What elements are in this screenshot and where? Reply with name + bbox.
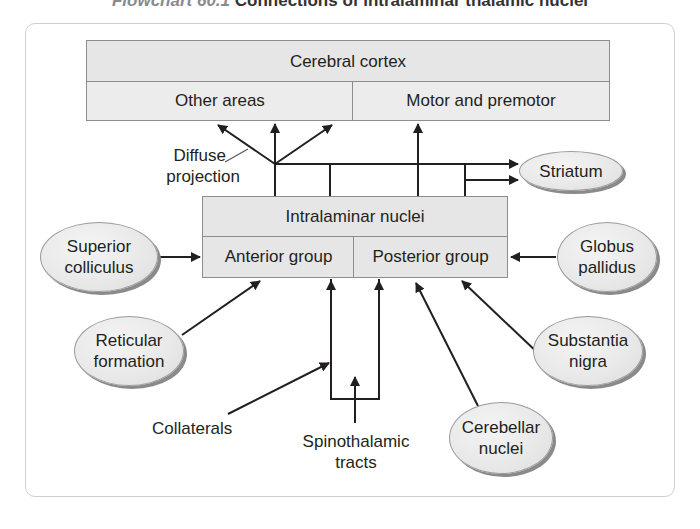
arrow-substantia-nigra — [462, 281, 540, 355]
spinothalamic-line1: Spinothalamic — [288, 431, 424, 452]
cerebellar-nuclei-line1: Cerebellar — [462, 417, 540, 438]
spinothalamic-tracts-label: Spinothalamic tracts — [288, 431, 424, 473]
arrow-collaterals — [228, 363, 329, 414]
globus-pallidus-line1: Globus — [578, 236, 636, 257]
diffuse-line2: projection — [150, 166, 240, 187]
arrow-diffuse-right — [275, 125, 332, 164]
reticular-formation-line2: formation — [94, 351, 165, 372]
arrow-reticular-formation — [182, 281, 260, 335]
collaterals-label: Collaterals — [152, 418, 232, 439]
globus-pallidus-node: Globus pallidus — [557, 222, 657, 292]
substantia-nigra-line1: Substantia — [548, 330, 628, 351]
diffuse-projection-label: Diffuse projection — [150, 145, 240, 187]
spinothalamic-line2: tracts — [288, 452, 424, 473]
reticular-formation-node: Reticular formation — [74, 316, 184, 386]
superior-colliculus-line2: colliculus — [65, 257, 134, 278]
superior-colliculus-line1: Superior — [65, 236, 134, 257]
cerebellar-nuclei-node: Cerebellar nuclei — [449, 402, 553, 474]
cerebellar-nuclei-line2: nuclei — [462, 438, 540, 459]
striatum-label: Striatum — [539, 161, 602, 182]
substantia-nigra-node: Substantia nigra — [533, 316, 643, 386]
globus-pallidus-line2: pallidus — [578, 257, 636, 278]
arrow-cerebellar-nuclei — [416, 283, 478, 406]
superior-colliculus-node: Superior colliculus — [40, 222, 158, 292]
diffuse-line1: Diffuse — [150, 145, 240, 166]
substantia-nigra-line2: nigra — [548, 351, 628, 372]
reticular-formation-line1: Reticular — [94, 330, 165, 351]
striatum-node: Striatum — [519, 151, 623, 191]
